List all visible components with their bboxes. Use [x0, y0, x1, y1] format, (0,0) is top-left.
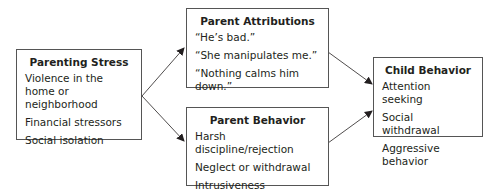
parenting-stress-box: Parenting Stress Violence in the home or… [16, 49, 142, 140]
list-item: Social withdrawal [382, 111, 474, 137]
list-item: Financial stressors [25, 116, 133, 129]
list-item: Social isolation [25, 134, 133, 147]
list-item: Harsh discipline/rejection [195, 130, 320, 156]
list-item: “She manipulates me.” [195, 49, 320, 62]
parenting-stress-title: Parenting Stress [25, 56, 133, 68]
parent-behavior-title: Parent Behavior [195, 114, 320, 126]
arrow-stress-to-behavior [142, 96, 184, 141]
parent-behavior-box: Parent Behavior Harsh discipline/rejecti… [186, 107, 329, 186]
list-item: Neglect or withdrawal [195, 161, 320, 174]
list-item: Intrusiveness [195, 179, 320, 192]
list-item: Violence in the home or neighborhood [25, 72, 133, 111]
arrow-stress-to-attributions [142, 48, 184, 96]
list-item: Aggressive behavior [382, 142, 474, 168]
parent-attributions-box: Parent Attributions “He’s bad.” “She man… [186, 8, 329, 88]
child-behavior-box: Child Behavior Attention seeking Social … [373, 57, 483, 137]
parent-attributions-title: Parent Attributions [195, 15, 320, 27]
list-item: “He’s bad.” [195, 31, 320, 44]
arrow-attributions-to-child [328, 52, 372, 84]
child-behavior-title: Child Behavior [382, 64, 474, 76]
list-item: “Nothing calms him down.” [195, 67, 320, 93]
arrow-behavior-to-child [328, 111, 372, 143]
list-item: Attention seeking [382, 80, 474, 106]
